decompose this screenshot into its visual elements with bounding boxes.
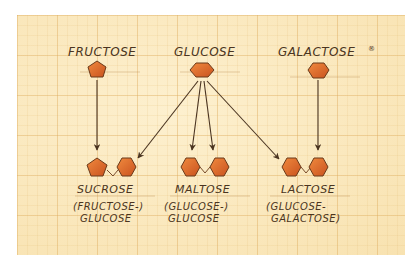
- maltose-composition-line2: GLUCOSE: [168, 213, 220, 224]
- maltose-label: MALTOSE: [175, 183, 230, 196]
- galactose-note-mark: ®: [368, 45, 376, 53]
- maltose-molecule: [181, 158, 229, 176]
- maltose-glucose-hexagon-icon-1: [181, 158, 200, 176]
- glucose-label: GLUCOSE: [174, 45, 235, 59]
- sucrose-composition-line1: (FRUCTOSE-): [73, 201, 144, 212]
- sucrose-molecule: [87, 158, 136, 176]
- fructose-pentagon-icon: [88, 61, 106, 77]
- lactose-composition-line1: (GLUCOSE-: [266, 201, 326, 212]
- sucrose-glucose-hexagon-icon: [117, 158, 136, 176]
- arrow-glucose-to-sucrose: [138, 81, 198, 158]
- lactose-galactose-hexagon-icon: [309, 158, 328, 176]
- fructose-label: FRUCTOSE: [68, 45, 136, 59]
- lactose-glucose-hexagon-icon: [282, 158, 301, 176]
- maltose-composition-line1: (GLUCOSE-): [164, 201, 229, 212]
- lactose-label: LACTOSE: [281, 183, 335, 196]
- galactose-label: GALACTOSE: [278, 45, 355, 59]
- glucose-hexagon-icon: [190, 63, 214, 77]
- maltose-glucose-hexagon-icon-2: [210, 158, 229, 176]
- galactose-hexagon-icon: [308, 63, 329, 78]
- lactose-molecule: [282, 158, 328, 176]
- sucrose-composition-line2: GLUCOSE: [80, 213, 132, 224]
- lactose-composition-line2: GALACTOSE): [271, 213, 341, 224]
- sucrose-label: SUCROSE: [77, 183, 133, 196]
- sucrose-fructose-pentagon-icon: [87, 158, 107, 176]
- arrow-glucose-to-maltose-2: [204, 81, 213, 150]
- disaccharide-diagram: FRUCTOSE GLUCOSE GALACTOSE ®: [0, 0, 420, 269]
- arrow-glucose-to-maltose-1: [192, 81, 201, 150]
- arrow-glucose-to-lactose: [207, 81, 279, 159]
